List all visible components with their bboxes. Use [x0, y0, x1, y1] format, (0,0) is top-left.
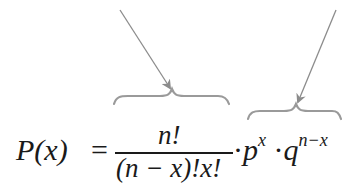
- probability-terms: ·px ·qn−x: [233, 133, 328, 167]
- p-exponent: x: [258, 130, 266, 150]
- fraction-denominator: (n − x)!x!: [116, 153, 221, 184]
- arrow-2-icon: [298, 10, 336, 102]
- equals-sign: =: [91, 133, 108, 167]
- multiply-dot-1: ·: [233, 133, 243, 166]
- arrow-1-icon: [120, 10, 170, 88]
- brace-1-icon: [114, 89, 229, 104]
- multiply-dot-2: ·: [274, 133, 284, 166]
- brace-2-icon: [248, 104, 341, 119]
- q-base: q: [284, 133, 299, 166]
- formula-lhs: P(x): [16, 133, 68, 167]
- p-base: p: [243, 133, 258, 166]
- fraction-numerator: n!: [158, 120, 181, 151]
- q-exponent: n−x: [299, 130, 328, 150]
